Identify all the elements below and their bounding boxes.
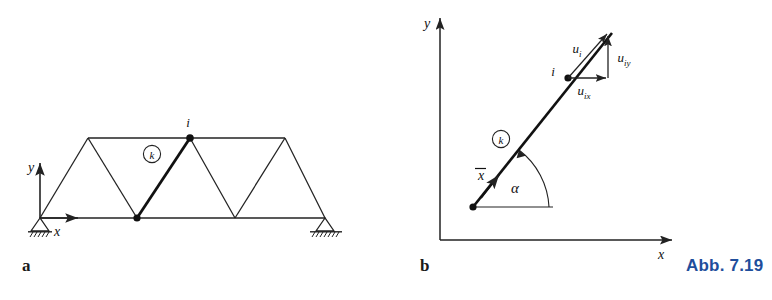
- truss-node-k-start: [133, 214, 140, 221]
- pin-support-right: [310, 218, 342, 237]
- panel-a-group: i k y x: [26, 115, 342, 239]
- panel-b-letter: b: [420, 256, 429, 276]
- truss-diagonal-5: [235, 138, 285, 218]
- local-x-axis-label: x: [477, 168, 485, 183]
- truss-node-i-label: i: [186, 115, 190, 130]
- panel-b-group: y x α x k i ui uix uiy: [422, 16, 672, 262]
- truss-node-i: [186, 134, 194, 142]
- angle-alpha-arc: [519, 150, 549, 207]
- truss-diagonal-2: [88, 138, 137, 218]
- panel-a-y-axis-label: y: [26, 160, 35, 175]
- panel-b-y-axis-label: y: [422, 16, 431, 31]
- panel-b-node-i-label: i: [551, 64, 555, 79]
- figure-caption: Abb. 7.19: [686, 256, 763, 276]
- displacement-x-label: uix: [578, 83, 591, 101]
- angle-alpha-label: α: [511, 180, 520, 196]
- panel-b-x-axis-label: x: [657, 247, 665, 262]
- figure-abb-7-19: i k y x: [0, 0, 772, 300]
- displacement-y-label: uiy: [618, 50, 631, 68]
- element-k-label: k: [150, 149, 156, 161]
- panel-a-x-axis-label: x: [53, 224, 61, 239]
- pin-support-left: [28, 218, 52, 237]
- panel-b-element-k-label: k: [499, 134, 505, 146]
- panel-a-letter: a: [22, 256, 31, 276]
- truss-diagonal-4: [190, 138, 235, 218]
- truss-diagonal-1: [40, 138, 88, 218]
- bar-start-node: [469, 203, 476, 210]
- truss-diagonal-6: [285, 138, 325, 218]
- displacement-resultant-label: ui: [572, 41, 582, 59]
